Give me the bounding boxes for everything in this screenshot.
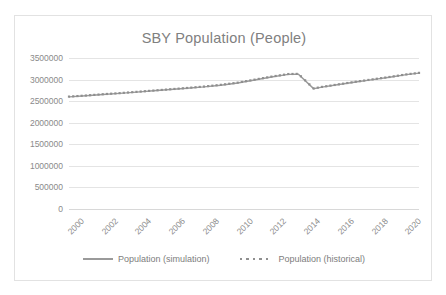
y-axis-tick-label: 500000 <box>35 182 63 192</box>
x-axis-tick-label: 2018 <box>369 216 389 236</box>
y-axis-tick-label: 2000000 <box>30 118 63 128</box>
y-axis-tick-label: 0 <box>58 204 63 214</box>
x-axis-tick-label: 2000 <box>66 216 86 236</box>
x-axis-tick-label: 2006 <box>167 216 187 236</box>
series-plot <box>69 58 419 209</box>
legend-item-historical[interactable]: Population (historical) <box>240 254 366 264</box>
chart-frame: SBY Population (People) 0500000100000015… <box>14 15 432 281</box>
chart-legend: Population (simulation) Population (hist… <box>15 254 433 264</box>
x-axis-tick-label: 2004 <box>133 216 153 236</box>
legend-label-historical: Population (historical) <box>279 254 366 264</box>
y-axis-tick-label: 1500000 <box>30 139 63 149</box>
plot-area: 0500000100000015000002000000250000030000… <box>69 58 419 209</box>
legend-label-simulation: Population (simulation) <box>118 254 210 264</box>
y-axis-tick-label: 1000000 <box>30 161 63 171</box>
x-axis-tick-label: 2008 <box>201 216 221 236</box>
x-axis-tick-label: 2002 <box>99 216 119 236</box>
chart-title: SBY Population (People) <box>15 30 433 46</box>
y-axis-tick-label: 2500000 <box>30 96 63 106</box>
legend-dots-swatch-icon <box>240 258 274 261</box>
x-axis-tick-label: 2010 <box>234 216 254 236</box>
series-line-simulation <box>69 73 419 97</box>
x-axis-tick-label: 2012 <box>268 216 288 236</box>
gridline <box>69 209 419 210</box>
legend-item-simulation[interactable]: Population (simulation) <box>83 254 210 264</box>
x-axis-tick-label: 2016 <box>335 216 355 236</box>
x-axis-tick-label: 2020 <box>403 216 423 236</box>
y-axis-tick-label: 3500000 <box>30 53 63 63</box>
x-axis-tick-label: 2014 <box>302 216 322 236</box>
y-axis-tick-label: 3000000 <box>30 75 63 85</box>
legend-line-swatch-icon <box>83 258 113 260</box>
